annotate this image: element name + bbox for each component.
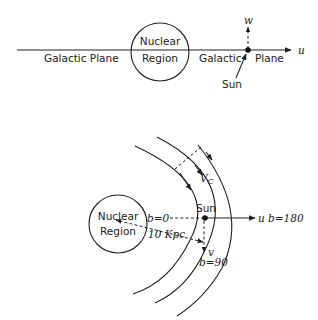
sun-dot bbox=[245, 47, 251, 53]
top-edge-on-view: Galactic Plane Nuclear Region Galactic P… bbox=[17, 14, 305, 90]
region-label: Region bbox=[142, 52, 178, 64]
distance-label: 10 Kpc bbox=[148, 228, 185, 240]
u-axis-label-bottom: u bbox=[258, 212, 265, 224]
u-axis-label: u bbox=[298, 44, 305, 56]
sun-label: Sun bbox=[222, 78, 242, 90]
b90-label: b=90 bbox=[199, 256, 228, 268]
nuclear-region-circle-bottom bbox=[89, 195, 147, 253]
nuclear-label-bottom: Nuclear bbox=[98, 210, 139, 222]
sun-dot-bottom bbox=[202, 215, 208, 221]
nuclear-label: Nuclear bbox=[140, 35, 181, 47]
w-axis-label: w bbox=[244, 14, 253, 26]
region-label-bottom: Region bbox=[100, 225, 136, 237]
left-galactic-plane-label: Galactic Plane bbox=[44, 52, 119, 64]
outer-orbit-arc bbox=[177, 145, 232, 316]
bottom-face-on-view: Nuclear Region VC u b=180 b=0 Sun v b=90… bbox=[89, 137, 304, 316]
right-plane-label: Plane bbox=[255, 52, 284, 64]
inner-rotation-arrow bbox=[180, 173, 191, 190]
b180-label: b=180 bbox=[268, 212, 304, 224]
b0-label: b=0 bbox=[147, 212, 170, 224]
galactic-coordinates-diagram: Galactic Plane Nuclear Region Galactic P… bbox=[0, 0, 318, 320]
vc-label: VC bbox=[200, 172, 214, 186]
right-galactic-label: Galactic bbox=[199, 52, 242, 64]
sun-label-bottom: Sun bbox=[196, 202, 216, 214]
